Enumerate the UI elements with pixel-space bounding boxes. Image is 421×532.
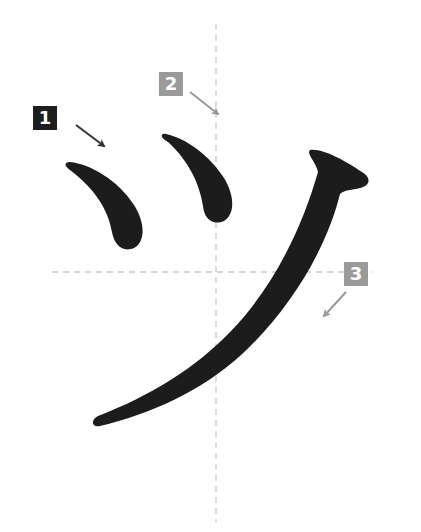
- stroke-order-badge-1: 1: [33, 106, 57, 130]
- stroke-2-arrow: [190, 92, 218, 114]
- stroke-3-arrow: [324, 292, 346, 316]
- stroke-2: [162, 134, 233, 223]
- stroke-order-badge-2: 2: [159, 72, 183, 96]
- stroke-order-badge-3: 3: [344, 262, 368, 286]
- stroke-3: [93, 150, 369, 427]
- stroke-order-diagram: 1 2 3: [0, 0, 421, 532]
- stroke-1-arrow: [76, 125, 104, 146]
- stroke-1: [66, 162, 143, 249]
